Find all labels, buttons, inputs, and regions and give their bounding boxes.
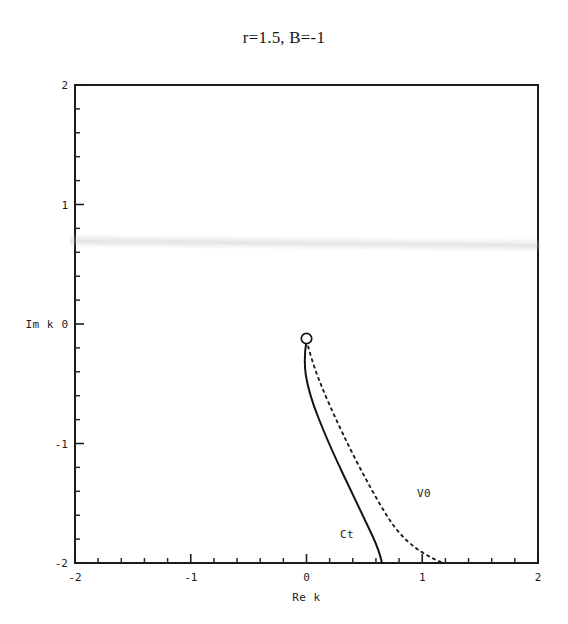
- series-label-ct: Ct: [340, 528, 354, 541]
- y-axis-title: Im k: [26, 318, 55, 331]
- plot-area: 2 1 0 -1 -2 -2 -1 0 1 2 Im k Re k Ct V0: [0, 0, 568, 624]
- x-axis-title: Re k: [292, 591, 321, 604]
- x-tick-label: 2: [535, 571, 542, 584]
- x-axis-ticks: [75, 554, 538, 563]
- y-tick-label: 2: [61, 79, 68, 92]
- y-tick-label: -2: [55, 557, 68, 570]
- x-tick-label: -1: [184, 571, 197, 584]
- x-tick-label: 1: [419, 571, 426, 584]
- branch-point-circle-icon: [301, 333, 311, 343]
- series-label-v0: V0: [417, 487, 431, 500]
- x-tick-label: 0: [303, 571, 310, 584]
- x-tick-label: -2: [68, 571, 81, 584]
- y-tick-label: -1: [55, 438, 68, 451]
- y-axis-ticks: [75, 85, 84, 563]
- curve-v0: [307, 340, 444, 563]
- figure-canvas: r=1.5, B=-1: [0, 0, 568, 624]
- y-tick-label: 0: [61, 318, 68, 331]
- y-tick-label: 1: [61, 199, 68, 212]
- plot-frame: [75, 85, 538, 563]
